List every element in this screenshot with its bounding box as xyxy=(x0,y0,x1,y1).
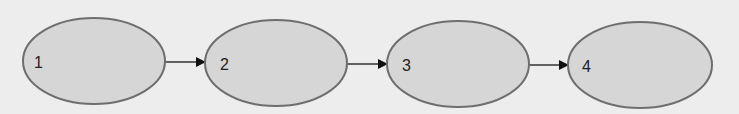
node-3-label: 3 xyxy=(402,57,411,74)
node-3: 3 xyxy=(387,21,529,107)
node-2: 2 xyxy=(205,20,347,106)
flow-diagram: 1 2 3 4 xyxy=(0,0,739,114)
node-2-label: 2 xyxy=(220,56,229,73)
node-4-label: 4 xyxy=(582,58,591,75)
node-1-label: 1 xyxy=(34,54,43,71)
node-1: 1 xyxy=(23,18,165,104)
node-4: 4 xyxy=(568,22,712,108)
